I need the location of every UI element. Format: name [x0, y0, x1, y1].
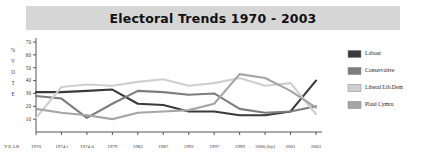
y-axis-tick-label-20: 20	[26, 103, 32, 109]
y-axis-tick-label-10: 10	[26, 116, 32, 122]
y-axis-tick-label-70: 70	[26, 39, 32, 45]
y-axis-title-char-2: O	[11, 69, 15, 75]
legend-label-plaid-cymru: Plaid Cymru	[365, 101, 394, 107]
y-axis-title-char-0: %	[11, 47, 16, 53]
x-axis-tick-label-1: 1974 i	[55, 144, 68, 149]
legend-label-conservative: Conservative	[365, 67, 395, 73]
y-axis-title-char-1: V	[11, 58, 15, 64]
x-axis-tick-label-4: 1983	[133, 144, 144, 149]
y-axis-title-char-4: E	[11, 91, 14, 97]
y-axis-tick-label-40: 40	[26, 77, 32, 83]
y-axis-tick-label-60: 60	[26, 52, 32, 58]
x-axis-tick-label-2: 1974 ii	[80, 144, 95, 149]
legend-label-liberal-lib-dem: Liberal/Lib.Dem	[365, 84, 403, 90]
y-axis-tick-label-30: 30	[26, 90, 32, 96]
legend-swatch-labour	[348, 50, 361, 57]
plot-area: 10203040506070%VOTEYEAR19701974 i1974 ii…	[0, 32, 425, 167]
legend-label-labour: Labour	[365, 50, 381, 56]
y-axis-title-char-3: T	[11, 80, 15, 86]
line-chart: 10203040506070%VOTEYEAR19701974 i1974 ii…	[0, 32, 425, 167]
x-axis-title: YEAR	[4, 144, 20, 149]
x-axis-tick-label-9: 2000 (by)	[255, 144, 275, 149]
page-title: Electoral Trends 1970 - 2003	[26, 6, 400, 30]
legend-swatch-plaid-cymru	[348, 101, 361, 108]
x-axis-tick-label-7: 1997	[209, 144, 220, 149]
x-axis-tick-label-11: 2003	[311, 144, 322, 149]
legend-swatch-conservative	[348, 67, 361, 74]
x-axis-tick-label-8: 1999	[235, 144, 246, 149]
x-axis-tick-label-0: 1970	[31, 144, 42, 149]
legend-swatch-liberal-lib-dem	[348, 84, 361, 91]
y-axis-tick-label-50: 50	[26, 65, 32, 71]
x-axis-tick-label-5: 1987	[158, 144, 169, 149]
x-axis-tick-label-6: 1992	[184, 144, 195, 149]
x-axis-tick-label-10: 2001	[286, 144, 297, 149]
chart-page: Electoral Trends 1970 - 2003 10203040506…	[0, 0, 425, 167]
x-axis-tick-label-3: 1979	[107, 144, 118, 149]
